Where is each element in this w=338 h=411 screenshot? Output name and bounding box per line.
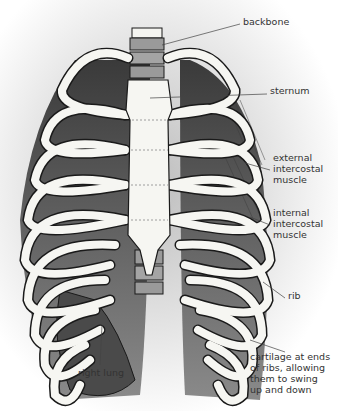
rib-cage-illustration bbox=[0, 0, 338, 411]
label-backbone: backbone bbox=[243, 16, 289, 27]
label-internal-intercostal-muscle: internal intercostal muscle bbox=[273, 207, 323, 240]
label-right-lung: right lung bbox=[78, 367, 124, 378]
label-cartilage: cartilage at ends of ribs, allowing them… bbox=[250, 351, 330, 395]
label-rib: rib bbox=[288, 290, 301, 301]
label-external-intercostal-muscle: external intercostal muscle bbox=[273, 152, 323, 185]
rib-cage-diagram: backbone sternum external intercostal mu… bbox=[0, 0, 338, 411]
label-sternum: sternum bbox=[270, 85, 310, 96]
